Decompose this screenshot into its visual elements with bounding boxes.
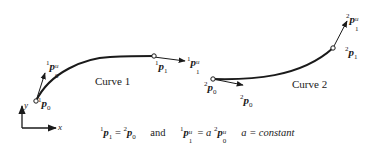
curve2-p1-tangent-arrow xyxy=(333,21,347,48)
y-axis-label: y xyxy=(24,101,28,110)
curve1-p0-label: 1p0 xyxy=(38,97,51,112)
curve1-p1-point xyxy=(152,54,156,58)
curve2-name: Curve 2 xyxy=(292,79,327,90)
x-axis-label: x xyxy=(58,123,62,132)
curve1-p0u-label: 1pu0 xyxy=(46,60,61,72)
curve-2 xyxy=(213,48,333,79)
curve2-p0-label: 2p0 xyxy=(204,81,217,96)
curve2-p1-label: 2p1 xyxy=(345,46,358,61)
continuity-equation: 1p1 = 2p0 and 1pu1 = a 2pu0 a = constant xyxy=(100,126,294,141)
curve2-p1u-label: 2pu1 xyxy=(346,13,361,25)
curve2-p1-point xyxy=(331,46,335,50)
curve2-p0u-label: 2p0 xyxy=(240,94,253,109)
constant-note: a = constant xyxy=(241,127,294,138)
curve1-p1u-label: 1pu1 xyxy=(187,56,202,68)
curve1-name: Curve 1 xyxy=(95,76,130,87)
curve1-p1-label: 1p1 xyxy=(155,60,168,75)
